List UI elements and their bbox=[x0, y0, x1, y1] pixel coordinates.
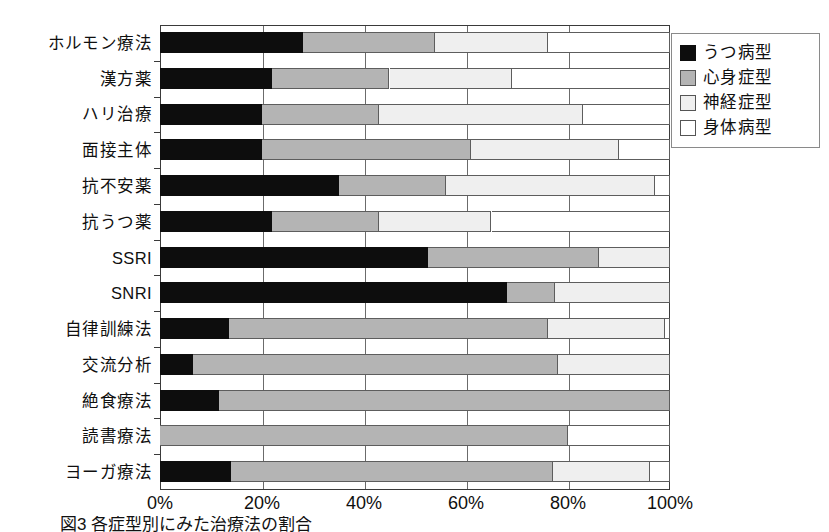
bar-segment-心身症型 bbox=[262, 104, 379, 125]
legend-swatch-icon bbox=[680, 120, 696, 136]
bar-row bbox=[160, 454, 670, 490]
bar-segment-心身症型 bbox=[272, 211, 379, 232]
bar-segment-身体病型 bbox=[665, 318, 670, 339]
bar-segment-心身症型 bbox=[193, 354, 558, 375]
bar-row bbox=[160, 311, 670, 347]
legend-swatch-icon bbox=[680, 95, 696, 111]
y-axis-label: ハリ治療 bbox=[0, 106, 152, 123]
stacked-bar bbox=[160, 282, 670, 303]
y-axis-label: 漢方薬 bbox=[0, 71, 152, 88]
bar-segment-神経症型 bbox=[555, 282, 670, 303]
bar-row bbox=[160, 132, 670, 168]
stacked-bar bbox=[160, 461, 670, 482]
legend-item: 身体病型 bbox=[680, 115, 811, 140]
bar-segment-心身症型 bbox=[428, 247, 599, 268]
legend-swatch-icon bbox=[680, 70, 696, 86]
bar-segment-うつ病型 bbox=[160, 461, 231, 482]
stacked-bar bbox=[160, 425, 670, 446]
bar-row bbox=[160, 275, 670, 311]
bar-segment-身体病型 bbox=[619, 139, 670, 160]
bar-segment-身体病型 bbox=[492, 211, 671, 232]
y-axis-label: 交流分析 bbox=[0, 357, 152, 374]
bar-row bbox=[160, 418, 670, 454]
bar-segment-神経症型 bbox=[548, 318, 665, 339]
bar-segment-神経症型 bbox=[446, 175, 655, 196]
y-tick bbox=[154, 240, 160, 241]
y-axis-label: ホルモン療法 bbox=[0, 35, 152, 52]
bar-segment-心身症型 bbox=[507, 282, 555, 303]
stacked-bar bbox=[160, 211, 670, 232]
stacked-bar bbox=[160, 32, 670, 53]
y-tick bbox=[154, 204, 160, 205]
stacked-bar-chart: ホルモン療法漢方薬ハリ治療面接主体抗不安薬抗うつ薬SSRISNRI自律訓練法交流… bbox=[0, 0, 829, 532]
bar-row bbox=[160, 25, 670, 61]
bar-segment-神経症型 bbox=[379, 104, 583, 125]
y-axis-label: 読書療法 bbox=[0, 428, 152, 445]
stacked-bar bbox=[160, 104, 670, 125]
bar-segment-神経症型 bbox=[471, 139, 619, 160]
bar-row bbox=[160, 204, 670, 240]
bar-rows bbox=[160, 25, 670, 490]
x-axis-tick-label: 0% bbox=[147, 494, 173, 512]
bar-segment-神経症型 bbox=[599, 247, 670, 268]
bar-segment-うつ病型 bbox=[160, 390, 219, 411]
y-tick bbox=[154, 132, 160, 133]
bar-segment-うつ病型 bbox=[160, 68, 272, 89]
bar-segment-神経症型 bbox=[379, 211, 491, 232]
x-axis-tick-label: 80% bbox=[550, 494, 586, 512]
y-tick bbox=[154, 311, 160, 312]
y-axis-label: 抗不安薬 bbox=[0, 178, 152, 195]
bar-row bbox=[160, 240, 670, 276]
legend-swatch-icon bbox=[680, 45, 696, 61]
bar-row bbox=[160, 61, 670, 97]
stacked-bar bbox=[160, 390, 670, 411]
bar-segment-身体病型 bbox=[548, 32, 670, 53]
y-axis-label: 自律訓練法 bbox=[0, 321, 152, 338]
bar-segment-うつ病型 bbox=[160, 247, 428, 268]
y-tick bbox=[154, 347, 160, 348]
legend-label: 身体病型 bbox=[703, 119, 772, 136]
bar-segment-心身症型 bbox=[231, 461, 552, 482]
chart-legend: うつ病型心身症型神経症型身体病型 bbox=[671, 33, 820, 148]
bar-segment-うつ病型 bbox=[160, 354, 193, 375]
bar-segment-心身症型 bbox=[160, 425, 568, 446]
x-axis-tick-label: 40% bbox=[346, 494, 382, 512]
y-tick bbox=[154, 97, 160, 98]
bar-segment-神経症型 bbox=[553, 461, 650, 482]
y-axis-labels: ホルモン療法漢方薬ハリ治療面接主体抗不安薬抗うつ薬SSRISNRI自律訓練法交流… bbox=[0, 25, 152, 490]
stacked-bar bbox=[160, 68, 670, 89]
bar-segment-うつ病型 bbox=[160, 32, 303, 53]
bar-segment-うつ病型 bbox=[160, 282, 507, 303]
legend-item: うつ病型 bbox=[680, 40, 811, 65]
y-tick bbox=[154, 383, 160, 384]
stacked-bar bbox=[160, 247, 670, 268]
y-tick bbox=[154, 168, 160, 169]
bar-segment-身体病型 bbox=[650, 461, 670, 482]
bar-segment-身体病型 bbox=[512, 68, 670, 89]
y-axis-label: 絶食療法 bbox=[0, 393, 152, 410]
stacked-bar bbox=[160, 318, 670, 339]
bar-segment-神経症型 bbox=[558, 354, 670, 375]
bar-row bbox=[160, 168, 670, 204]
stacked-bar bbox=[160, 175, 670, 196]
y-tick bbox=[154, 61, 160, 62]
bar-row bbox=[160, 347, 670, 383]
bar-segment-心身症型 bbox=[339, 175, 446, 196]
bar-segment-心身症型 bbox=[272, 68, 389, 89]
legend-label: 神経症型 bbox=[703, 94, 772, 111]
y-axis-label: 面接主体 bbox=[0, 142, 152, 159]
legend-item: 神経症型 bbox=[680, 90, 811, 115]
x-axis-tick-label: 100% bbox=[647, 494, 693, 512]
bar-segment-うつ病型 bbox=[160, 175, 339, 196]
legend-label: うつ病型 bbox=[703, 44, 772, 61]
legend-label: 心身症型 bbox=[703, 69, 772, 86]
y-axis-label: 抗うつ薬 bbox=[0, 214, 152, 231]
bar-segment-うつ病型 bbox=[160, 139, 262, 160]
stacked-bar bbox=[160, 139, 670, 160]
y-axis-label: SSRI bbox=[0, 250, 152, 267]
stacked-bar bbox=[160, 354, 670, 375]
bar-row bbox=[160, 97, 670, 133]
bar-segment-心身症型 bbox=[262, 139, 471, 160]
bar-row bbox=[160, 383, 670, 419]
x-axis-tick-label: 60% bbox=[448, 494, 484, 512]
